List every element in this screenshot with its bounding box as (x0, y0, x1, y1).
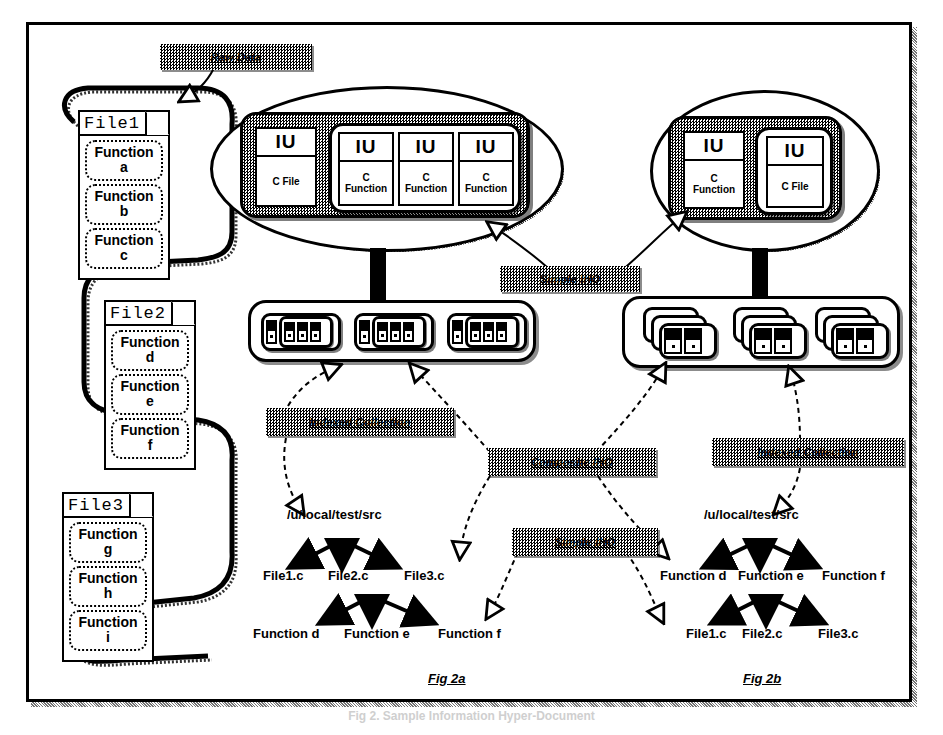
simple-iho-b-container: IU CFunction IU C File (668, 116, 842, 220)
simple-iho-b-children-group: IU C File (755, 127, 833, 215)
tree-b-node-file3: File3.c (818, 626, 858, 641)
iu-header: IU (768, 138, 822, 166)
file-functions-file3: Functiong Functionh Functioni (64, 518, 152, 657)
file-card-file2: File2 Functiond Functione Functionf (104, 300, 196, 470)
mini-iu (856, 328, 874, 354)
mini-iu (470, 322, 481, 342)
tree-a-node-file3: File3.c (404, 568, 444, 583)
figure-canvas: File1 Functiona Functionb Functionc File… (0, 0, 943, 735)
figure-label-a: Fig 2a (428, 671, 466, 686)
mini-iu (754, 328, 772, 354)
mini-iu (284, 322, 295, 342)
collection-subgroup (749, 323, 807, 359)
function-box: Functione (111, 374, 189, 415)
iu-body: C File (768, 166, 822, 206)
collection-subgroup (279, 316, 333, 348)
callout-indexed-collection-right: Indexed Collection (712, 438, 904, 466)
function-box: Functionh (69, 566, 147, 607)
mini-iu (483, 322, 494, 342)
function-box: Functionc (85, 228, 163, 269)
mini-iu (359, 320, 370, 344)
tree-b-node-function-f: Function f (822, 568, 885, 583)
collection-subgroup (659, 323, 717, 359)
mini-iu (266, 320, 277, 344)
collection-item (733, 307, 813, 363)
mini-iu (297, 322, 308, 342)
mini-iu (452, 320, 463, 344)
mini-iu (684, 328, 702, 354)
iu-body: CFunction (460, 162, 512, 204)
iu-body: CFunction (400, 162, 452, 204)
tree-b-root: /u/local/test/src (704, 507, 799, 522)
iu-root-b: IU CFunction (683, 131, 745, 209)
iu-body: CFunction (340, 162, 392, 204)
iu-header: IU (340, 134, 392, 162)
simple-iho-a-children-group: IU CFunction IU CFunction IU CFunction (329, 123, 521, 213)
tree-b-node-function-e: Function e (738, 568, 804, 583)
collection-subgroup (831, 323, 889, 359)
tree-a-root: /u/local/test/src (287, 507, 382, 522)
iu-child: IU CFunction (398, 132, 454, 206)
indexed-collection-a (248, 300, 536, 362)
iu-body: CFunction (685, 161, 743, 207)
tree-a-node-function-f: Function f (438, 626, 501, 641)
mini-iu (377, 322, 388, 342)
iu-header: IU (400, 134, 452, 162)
collection-item (447, 313, 527, 351)
mini-iu (403, 322, 414, 342)
iu-header: IU (460, 134, 512, 162)
collection-item (354, 313, 434, 351)
simple-iho-a-container: IU C File IU CFunction IU CFunction IU C… (240, 112, 530, 218)
iu-child: IU CFunction (338, 132, 394, 206)
function-box: Functiona (85, 140, 163, 181)
mini-iu (774, 328, 792, 354)
file-functions-file2: Functiond Functione Functionf (106, 326, 194, 465)
function-box: Functiong (69, 522, 147, 563)
mini-iu (390, 322, 401, 342)
collection-subgroup (465, 316, 519, 348)
tree-a-node-function-d: Function d (253, 626, 319, 641)
callout-composite-iho: Composite IHO (488, 448, 656, 476)
mini-iu (310, 322, 321, 342)
callout-indexed-collection-left: Indexed Collection (266, 408, 454, 436)
iu-header: IU (257, 129, 315, 157)
function-box: Functiond (111, 330, 189, 371)
function-box: Functioni (69, 610, 147, 651)
callout-simple-iho-top: Simple IHO (500, 266, 640, 292)
collection-subgroup (372, 316, 426, 348)
collection-item (261, 313, 341, 351)
tree-b-node-file2: File2.c (742, 626, 782, 641)
tree-b-node-function-d: Function d (660, 568, 726, 583)
iu-header: IU (685, 133, 743, 161)
iu-root-a: IU C File (255, 127, 317, 207)
tree-a-node-file2: File2.c (328, 568, 368, 583)
function-box: Functionf (111, 418, 189, 459)
mini-iu (496, 322, 507, 342)
callout-simple-iho-bottom: Simple IHO (512, 528, 658, 556)
file-card-file1: File1 Functiona Functionb Functionc (78, 110, 170, 280)
iu-child: IU C File (766, 136, 824, 208)
tree-b-node-file1: File1.c (686, 626, 726, 641)
mini-iu (836, 328, 854, 354)
collection-item (643, 307, 723, 363)
collection-item (815, 307, 895, 363)
file-card-file3: File3 Functiong Functionh Functioni (62, 492, 154, 662)
callout-raw-data: Raw Data (160, 44, 312, 70)
mini-iu (664, 328, 682, 354)
figure-caption: Fig 2. Sample Information Hyper-Document (0, 709, 943, 723)
file-functions-file1: Functiona Functionb Functionc (80, 136, 168, 275)
tree-a-node-file1: File1.c (263, 568, 303, 583)
figure-label-b: Fig 2b (743, 671, 781, 686)
iu-body: C File (257, 157, 315, 205)
indexed-collection-b (622, 296, 900, 368)
function-box: Functionb (85, 184, 163, 225)
tree-a-node-function-e: Function e (344, 626, 410, 641)
iu-child: IU CFunction (458, 132, 514, 206)
